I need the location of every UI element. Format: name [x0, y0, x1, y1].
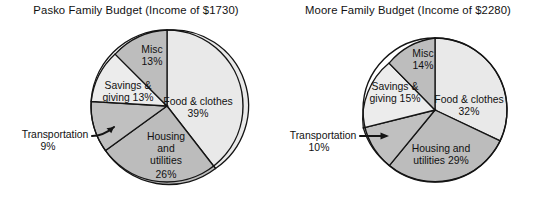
pie-svg-moore: Food & clothes 32% Housing and utilities…	[272, 0, 544, 201]
label-food-clothes-pct: 39%	[188, 108, 209, 119]
label-misc: Misc	[412, 48, 433, 59]
label-misc-pct: 14%	[413, 60, 434, 71]
chart-moore-family-budget: Moore Family Budget (Income of $2280) Fo…	[272, 0, 544, 201]
label-housing-line3: utilities	[150, 155, 182, 166]
label-housing-line2: utilities 29%	[413, 155, 468, 166]
label-transportation: Transportation	[290, 130, 357, 141]
label-misc-pct: 13%	[142, 56, 163, 67]
label-savings-line1: Savings &	[105, 80, 152, 91]
label-food-clothes: Food & clothes	[163, 96, 232, 107]
label-housing-pct: 26%	[156, 169, 177, 180]
label-savings-line2: giving 13%	[103, 92, 154, 103]
label-savings-line1: Savings &	[372, 81, 419, 92]
label-housing-line2: and	[157, 143, 175, 154]
label-transportation-pct: 9%	[40, 141, 55, 152]
chart-pasko-family-budget: Pasko Family Budget (Income of $1730) Fo…	[0, 0, 272, 201]
pie-svg-pasko: Food & clothes 39% Housing and utilities…	[0, 0, 272, 201]
label-housing-line1: Housing	[147, 131, 185, 142]
pie-charts-figure: Pasko Family Budget (Income of $1730) Fo…	[0, 0, 544, 201]
label-transportation: Transportation	[22, 129, 89, 140]
label-housing-line1: Housing and	[412, 143, 471, 154]
label-food-clothes: Food & clothes	[434, 94, 503, 105]
label-savings-line2: giving 15%	[370, 93, 421, 104]
label-misc: Misc	[141, 44, 162, 55]
label-food-clothes-pct: 32%	[459, 106, 480, 117]
label-transportation-pct: 10%	[309, 142, 330, 153]
